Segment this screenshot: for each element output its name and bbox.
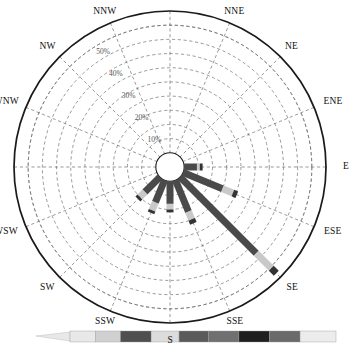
compass-label-se: SE: [287, 283, 299, 293]
radial-tick-50: 50%: [96, 48, 110, 56]
radial-tick-20: 20%: [135, 114, 149, 122]
compass-label-ene: ENE: [323, 97, 342, 107]
radial-tick-10: 10%: [147, 136, 161, 144]
compass-label-e: E: [343, 162, 349, 172]
polar-grid: [14, 11, 326, 323]
radial-tick-30: 30%: [122, 92, 136, 100]
compass-label-ese: ESE: [324, 227, 342, 237]
compass-label-nne: NNE: [224, 7, 244, 17]
compass-label-ssw: SSW: [95, 317, 115, 327]
compass-label-ne: NE: [285, 42, 298, 52]
compass-label-sse: SSE: [226, 317, 243, 327]
compass-label-nnw: NNW: [93, 7, 116, 17]
compass-label-nw: NW: [39, 42, 55, 52]
radial-tick-40: 40%: [109, 70, 123, 78]
compass-label-n: N: [167, 0, 174, 1]
compass-label-wsw: WSW: [0, 227, 18, 237]
legend-color-bar: [36, 331, 336, 342]
compass-label-s: S: [168, 336, 173, 344]
compass-label-wnw: WNW: [0, 97, 19, 107]
compass-label-sw: SW: [40, 283, 55, 293]
